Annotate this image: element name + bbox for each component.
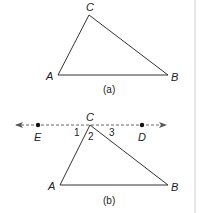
point-label-e: E (34, 131, 42, 143)
angle-label-3: 3 (109, 127, 115, 138)
geometry-figure: C A B (a) C E D 1 2 3 A B (b) (0, 0, 202, 213)
vertex-label-c-a: C (86, 1, 94, 13)
figure-b: C E D 1 2 3 A B (b) (16, 111, 178, 206)
figure-a: C A B (a) (45, 1, 178, 95)
vertex-label-a-b: A (47, 180, 55, 192)
angle-label-1: 1 (74, 127, 80, 138)
vertex-label-a-a: A (45, 70, 53, 82)
vertex-label-b-a: B (171, 71, 178, 83)
vertex-label-c-b: C (86, 111, 94, 123)
caption-b: (b) (103, 195, 115, 206)
angle-label-2: 2 (88, 131, 94, 142)
point-d (140, 123, 144, 127)
point-e (36, 123, 40, 127)
vertex-label-b-b: B (171, 181, 178, 193)
point-label-d: D (138, 131, 146, 143)
caption-a: (a) (103, 84, 115, 95)
triangle-abc-a (58, 15, 168, 75)
